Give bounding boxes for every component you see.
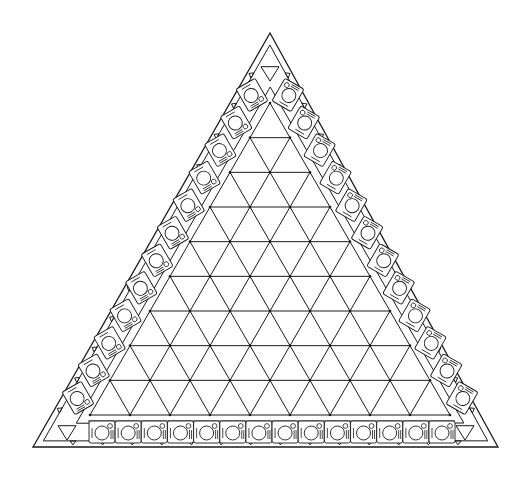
place-setting [324,421,350,443]
place-setting [319,161,351,195]
seat-box [62,381,94,415]
grid-vertex [429,379,432,382]
grid-vertex [409,344,412,347]
grid-vertex [329,344,332,347]
grid-vertex [289,344,292,347]
grid-vertex [369,275,372,278]
grid-vertex [209,344,212,347]
grid-vertex [229,240,232,243]
grid-vertex [149,379,152,382]
place-setting [399,299,431,333]
place-setting [94,326,126,360]
edge-tick-icon [249,73,254,78]
grid-vertex [329,206,332,209]
grid-vertex [89,414,92,417]
seat-box [94,326,126,360]
top-corner-triangle-icon [261,67,279,81]
place-setting [167,421,193,443]
grid-vertex [349,310,352,313]
edge-tick-icon [455,441,461,445]
grid-vertex [309,379,312,382]
grid-vertex [389,379,392,382]
place-setting [288,106,320,140]
place-setting [429,421,455,443]
place-setting [446,381,478,415]
place-setting [403,421,429,443]
grid-vertex [149,310,152,313]
grid-vertex [169,344,172,347]
corner-markers [58,67,474,440]
place-setting [220,421,246,443]
seat-box [125,271,157,305]
place-setting [272,78,304,112]
place-setting [78,354,110,388]
grid-line [410,380,430,415]
grid-vertex [309,171,312,174]
place-setting [298,421,324,443]
table-diagram: Triangular banquet table plan [0,0,531,485]
place-setting [351,421,377,443]
place-setting [89,421,115,443]
grid-vertex [369,344,372,347]
edge-tick-icon [469,408,474,413]
grid-vertex [329,414,332,417]
bottom-right-corner-triangle-icon [456,426,474,440]
place-setting [141,421,167,443]
grid-vertex [189,240,192,243]
grid-vertex [269,102,272,105]
grid-vertex [369,414,372,417]
grid-vertex [309,310,312,313]
grid-vertex [269,310,272,313]
edge-tick-icon [285,73,290,78]
grid-vertex [289,414,292,417]
grid-line [250,242,350,415]
grid-vertex [109,379,112,382]
grid-vertex [249,206,252,209]
grid-vertex [289,206,292,209]
grid-vertex [209,414,212,417]
place-setting [304,133,336,167]
edge-tick-icon [92,347,97,352]
grid-line [330,311,390,415]
grid-vertex [129,414,132,417]
place-setting [272,421,298,443]
grid-vertex [189,310,192,313]
triangle-table-drawing [0,0,531,485]
grid-vertex [189,379,192,382]
edge-tick-icon [75,377,80,382]
place-setting [377,421,403,443]
place-setting [115,421,141,443]
lattice-grid [89,102,452,417]
place-setting [430,354,462,388]
grid-vertex [289,275,292,278]
grid-vertex [449,414,452,417]
grid-vertex [169,414,172,417]
grid-vertex [249,136,252,139]
place-setting [351,216,383,250]
grid-line [150,311,210,415]
grid-line [110,380,130,415]
grid-vertex [289,136,292,139]
edge-tick-icon [57,408,62,413]
grid-vertex [229,171,232,174]
place-setting [62,381,94,415]
grid-vertex [389,310,392,313]
grid-vertex [209,206,212,209]
edge-tick-icon [70,441,76,445]
grid-vertex [329,275,332,278]
grid-vertex [249,344,252,347]
grid-vertex [269,171,272,174]
grid-vertex [409,414,412,417]
grid-vertex [249,275,252,278]
place-setting [414,326,446,360]
grid-vertex [209,275,212,278]
bottom-left-corner-triangle-icon [58,426,76,440]
place-setting [367,244,399,278]
grid-vertex [349,240,352,243]
place-setting [246,421,272,443]
grid-vertex [229,379,232,382]
grid-vertex [129,344,132,347]
grid-vertex [249,414,252,417]
place-settings [62,78,478,443]
seat-box [109,299,141,333]
